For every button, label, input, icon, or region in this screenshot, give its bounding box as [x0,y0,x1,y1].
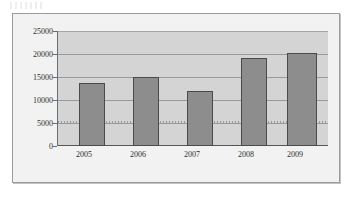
gridline-25000 [58,31,328,32]
y-tick-label-0: 0 [49,143,53,151]
bar-2009[interactable] [287,53,317,146]
chart-frame: 25000 20000 15000 10000 5000 0 2005 2006… [12,13,340,183]
bar-2006[interactable] [133,77,159,146]
y-tick-label-10000: 10000 [33,97,53,105]
x-tick-label-2008: 2008 [227,151,265,159]
bar-2007[interactable] [187,91,213,146]
x-tick-label-2009: 2009 [276,151,314,159]
x-tick-label-2005: 2005 [65,151,103,159]
x-tick-label-2007: 2007 [173,151,211,159]
y-tick-mark-0 [53,146,57,147]
y-tick-label-20000: 20000 [33,51,53,59]
y-tick-label-15000: 15000 [33,74,53,82]
plot-area [57,31,328,146]
x-tick-label-2006: 2006 [119,151,157,159]
y-tick-label-5000: 5000 [37,120,53,128]
scan-artifact-speckle [10,2,44,9]
y-axis: 25000 20000 15000 10000 5000 0 [13,14,53,182]
bar-2008[interactable] [241,58,267,146]
bar-2005[interactable] [79,83,105,146]
y-tick-label-25000: 25000 [33,28,53,36]
